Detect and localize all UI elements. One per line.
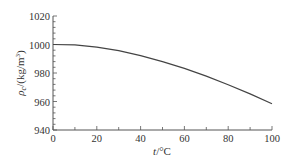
y-axis-label: ρc/(kg/m3): [14, 50, 28, 97]
x-tick-label: 40: [135, 133, 146, 144]
x-tick-label: 100: [264, 133, 280, 144]
chart-canvas: 94096098010001020020406080100 ρc/(kg/m3)…: [0, 0, 295, 162]
x-axis-label: t/°C: [153, 145, 171, 157]
density-temperature-chart: 94096098010001020020406080100 ρc/(kg/m3)…: [0, 0, 295, 162]
x-tick-label: 60: [179, 133, 190, 144]
data-line-density: [53, 45, 272, 104]
y-tick-label: 1020: [29, 11, 50, 22]
plot-area: [53, 45, 272, 104]
y-tick-label: 980: [34, 68, 50, 79]
y-tick-label: 1000: [29, 40, 50, 51]
axes: 94096098010001020020406080100: [29, 11, 280, 144]
y-tick-label: 940: [34, 125, 50, 136]
y-tick-label: 960: [34, 97, 50, 108]
x-tick-label: 0: [50, 133, 55, 144]
x-tick-label: 80: [223, 133, 234, 144]
x-tick-label: 20: [92, 133, 103, 144]
